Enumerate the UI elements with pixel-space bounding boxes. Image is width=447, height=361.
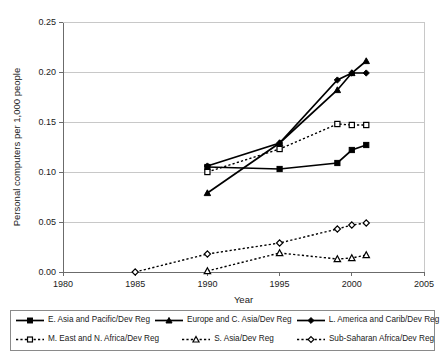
chart-figure: 0.000.050.100.150.200.251980198519901995… <box>0 0 447 361</box>
series-line-1 <box>207 61 366 193</box>
series-5 <box>132 220 369 275</box>
marker-triangle-filled <box>363 58 369 64</box>
marker-diamond-filled <box>363 70 369 76</box>
legend-row-2: M. East and N. Africa/Dev RegS. Asia/Dev… <box>11 330 434 349</box>
legend-key-square-filled <box>15 315 45 326</box>
marker-diamond-open <box>308 337 314 343</box>
series-line-0 <box>207 145 366 169</box>
marker-square-filled <box>277 166 282 171</box>
legend-item-label: M. East and N. Africa/Dev Reg <box>48 335 159 343</box>
marker-diamond-filled <box>308 318 314 324</box>
marker-triangle-open <box>363 252 369 258</box>
marker-square-filled <box>349 147 354 152</box>
legend-item-m-east-and-n-africa-dev-reg[interactable]: M. East and N. Africa/Dev Reg <box>15 334 159 345</box>
marker-triangle-open <box>334 256 340 262</box>
series-line-4 <box>207 253 366 271</box>
series-3 <box>205 121 369 174</box>
marker-square-open <box>364 122 369 127</box>
marker-square-filled <box>28 318 33 323</box>
legend-item-l-america-and-carib-dev-reg[interactable]: L. America and Carib/Dev Reg <box>296 315 440 326</box>
series-line-5 <box>135 223 366 272</box>
legend-item-label: S. Asia/Dev Reg <box>214 335 274 343</box>
marker-triangle-open <box>204 268 210 274</box>
marker-diamond-open <box>334 226 340 232</box>
legend-key-triangle-open <box>181 334 211 345</box>
legend-key-square-open <box>15 334 45 345</box>
chart-legend: E. Asia and Pacific/Dev RegEurope and C.… <box>10 310 435 351</box>
marker-diamond-open <box>277 240 283 246</box>
y-axis-title: Personal computers per 1,000 people <box>11 68 22 226</box>
series-4 <box>204 250 369 274</box>
marker-triangle-open <box>349 255 355 261</box>
marker-diamond-open <box>349 222 355 228</box>
legend-key-triangle-filled <box>154 315 184 326</box>
marker-square-filled <box>364 142 369 147</box>
marker-diamond-open <box>363 220 369 226</box>
marker-triangle-open <box>276 250 282 256</box>
x-axis-title: Year <box>234 294 253 305</box>
legend-key-diamond-filled <box>296 315 326 326</box>
legend-row-1: E. Asia and Pacific/Dev RegEurope and C.… <box>11 311 434 330</box>
line-chart-canvas: 0.000.050.100.150.200.251980198519901995… <box>0 0 447 305</box>
legend-item-label: Europe and C. Asia/Dev Reg <box>187 316 292 324</box>
y-tick-label: 0.00 <box>38 267 56 277</box>
legend-item-sub-saharan-africa-dev-reg[interactable]: Sub-Saharan Africa/Dev Reg <box>296 334 434 345</box>
series-0 <box>205 142 369 171</box>
x-tick-label: 2000 <box>342 279 362 289</box>
legend-item-s-asia-dev-reg[interactable]: S. Asia/Dev Reg <box>181 334 274 345</box>
series-line-2 <box>207 73 366 166</box>
x-tick-label: 1995 <box>270 279 290 289</box>
series-line-3 <box>207 124 366 172</box>
x-tick-label: 1985 <box>125 279 145 289</box>
y-tick-label: 0.25 <box>38 17 56 27</box>
y-tick-label: 0.05 <box>38 217 56 227</box>
x-tick-label: 1980 <box>53 279 73 289</box>
legend-item-label: L. America and Carib/Dev Reg <box>329 316 440 324</box>
marker-square-open <box>205 169 210 174</box>
legend-item-europe-and-c-asia-dev-reg[interactable]: Europe and C. Asia/Dev Reg <box>154 315 292 326</box>
marker-square-filled <box>335 160 340 165</box>
series-2 <box>204 70 369 169</box>
legend-item-e-asia-and-pacific-dev-reg[interactable]: E. Asia and Pacific/Dev Reg <box>15 315 150 326</box>
marker-diamond-open <box>204 251 210 257</box>
marker-diamond-open <box>132 269 138 275</box>
marker-square-open <box>349 122 354 127</box>
y-tick-label: 0.15 <box>38 117 56 127</box>
legend-key-diamond-open <box>296 334 326 345</box>
series-1 <box>204 58 369 196</box>
legend-item-label: Sub-Saharan Africa/Dev Reg <box>329 335 434 343</box>
x-tick-label: 1990 <box>197 279 217 289</box>
legend-item-label: E. Asia and Pacific/Dev Reg <box>48 316 150 324</box>
y-tick-label: 0.10 <box>38 167 56 177</box>
marker-square-open <box>28 337 33 342</box>
marker-square-open <box>277 146 282 151</box>
marker-triangle-open <box>193 336 199 342</box>
x-tick-label: 2005 <box>414 279 434 289</box>
marker-square-open <box>335 121 340 126</box>
y-tick-label: 0.20 <box>38 67 56 77</box>
